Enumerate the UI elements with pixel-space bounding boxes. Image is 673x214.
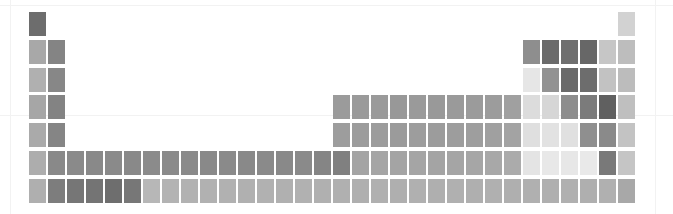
heatmap-cell[interactable]: [390, 95, 407, 119]
heatmap-cell[interactable]: [447, 123, 464, 147]
heatmap-cell[interactable]: [352, 123, 369, 147]
heatmap-cell[interactable]: [580, 95, 597, 119]
heatmap-cell[interactable]: [124, 151, 141, 175]
heatmap-cell[interactable]: [580, 68, 597, 92]
heatmap-cell[interactable]: [447, 151, 464, 175]
heatmap-cell[interactable]: [542, 123, 559, 147]
heatmap-cell[interactable]: [219, 151, 236, 175]
heatmap-cell[interactable]: [86, 151, 103, 175]
heatmap-cell[interactable]: [542, 151, 559, 175]
heatmap-cell[interactable]: [238, 179, 255, 203]
heatmap-cell[interactable]: [333, 179, 350, 203]
heatmap-cell[interactable]: [618, 179, 635, 203]
heatmap-cell[interactable]: [200, 151, 217, 175]
heatmap-cell[interactable]: [333, 123, 350, 147]
heatmap-cell[interactable]: [466, 123, 483, 147]
heatmap-cell[interactable]: [29, 151, 46, 175]
heatmap-cell[interactable]: [466, 95, 483, 119]
heatmap-cell[interactable]: [67, 151, 84, 175]
heatmap-cell[interactable]: [428, 179, 445, 203]
heatmap-cell[interactable]: [162, 151, 179, 175]
heatmap-cell[interactable]: [29, 123, 46, 147]
heatmap-cell[interactable]: [238, 151, 255, 175]
heatmap-cell[interactable]: [352, 151, 369, 175]
heatmap-cell[interactable]: [618, 12, 635, 36]
heatmap-cell[interactable]: [561, 151, 578, 175]
heatmap-cell[interactable]: [181, 151, 198, 175]
heatmap-cell[interactable]: [371, 151, 388, 175]
heatmap-cell[interactable]: [390, 123, 407, 147]
heatmap-cell[interactable]: [314, 151, 331, 175]
heatmap-cell[interactable]: [162, 179, 179, 203]
heatmap-cell[interactable]: [618, 151, 635, 175]
heatmap-cell[interactable]: [219, 179, 236, 203]
heatmap-cell[interactable]: [352, 179, 369, 203]
heatmap-cell[interactable]: [181, 179, 198, 203]
heatmap-cell[interactable]: [390, 151, 407, 175]
heatmap-cell[interactable]: [523, 123, 540, 147]
heatmap-cell[interactable]: [523, 179, 540, 203]
heatmap-cell[interactable]: [428, 151, 445, 175]
heatmap-cell[interactable]: [428, 123, 445, 147]
heatmap-cell[interactable]: [48, 40, 65, 64]
heatmap-cell[interactable]: [523, 68, 540, 92]
heatmap-cell[interactable]: [485, 123, 502, 147]
heatmap-cell[interactable]: [200, 179, 217, 203]
heatmap-cell[interactable]: [257, 151, 274, 175]
heatmap-cell[interactable]: [580, 151, 597, 175]
heatmap-cell[interactable]: [561, 40, 578, 64]
heatmap-cell[interactable]: [409, 95, 426, 119]
heatmap-cell[interactable]: [504, 95, 521, 119]
heatmap-cell[interactable]: [618, 68, 635, 92]
heatmap-cell[interactable]: [599, 68, 616, 92]
heatmap-cell[interactable]: [599, 123, 616, 147]
heatmap-cell[interactable]: [599, 151, 616, 175]
heatmap-cell[interactable]: [523, 40, 540, 64]
heatmap-cell[interactable]: [48, 151, 65, 175]
heatmap-cell[interactable]: [143, 151, 160, 175]
heatmap-cell[interactable]: [86, 179, 103, 203]
heatmap-cell[interactable]: [542, 68, 559, 92]
heatmap-cell[interactable]: [504, 151, 521, 175]
heatmap-cell[interactable]: [561, 95, 578, 119]
heatmap-cell[interactable]: [314, 179, 331, 203]
heatmap-cell[interactable]: [618, 123, 635, 147]
heatmap-cell[interactable]: [67, 179, 84, 203]
heatmap-cell[interactable]: [447, 95, 464, 119]
heatmap-cell[interactable]: [523, 151, 540, 175]
heatmap-cell[interactable]: [599, 95, 616, 119]
heatmap-cell[interactable]: [542, 179, 559, 203]
heatmap-cell[interactable]: [485, 151, 502, 175]
heatmap-cell[interactable]: [542, 95, 559, 119]
heatmap-cell[interactable]: [542, 40, 559, 64]
heatmap-cell[interactable]: [333, 151, 350, 175]
heatmap-cell[interactable]: [466, 179, 483, 203]
heatmap-cell[interactable]: [295, 179, 312, 203]
heatmap-cell[interactable]: [29, 179, 46, 203]
heatmap-cell[interactable]: [48, 68, 65, 92]
heatmap-cell[interactable]: [48, 179, 65, 203]
heatmap-cell[interactable]: [276, 179, 293, 203]
heatmap-cell[interactable]: [390, 179, 407, 203]
heatmap-cell[interactable]: [485, 179, 502, 203]
heatmap-cell[interactable]: [466, 151, 483, 175]
heatmap-cell[interactable]: [48, 123, 65, 147]
heatmap-cell[interactable]: [523, 95, 540, 119]
heatmap-cell[interactable]: [409, 123, 426, 147]
heatmap-cell[interactable]: [561, 123, 578, 147]
heatmap-cell[interactable]: [143, 179, 160, 203]
heatmap-cell[interactable]: [618, 95, 635, 119]
heatmap-cell[interactable]: [580, 40, 597, 64]
heatmap-cell[interactable]: [276, 151, 293, 175]
heatmap-cell[interactable]: [29, 40, 46, 64]
heatmap-cell[interactable]: [409, 151, 426, 175]
heatmap-cell[interactable]: [580, 123, 597, 147]
heatmap-cell[interactable]: [599, 179, 616, 203]
heatmap-cell[interactable]: [371, 95, 388, 119]
heatmap-cell[interactable]: [447, 179, 464, 203]
heatmap-cell[interactable]: [504, 123, 521, 147]
heatmap-cell[interactable]: [561, 179, 578, 203]
heatmap-cell[interactable]: [580, 179, 597, 203]
heatmap-cell[interactable]: [295, 151, 312, 175]
heatmap-cell[interactable]: [105, 179, 122, 203]
